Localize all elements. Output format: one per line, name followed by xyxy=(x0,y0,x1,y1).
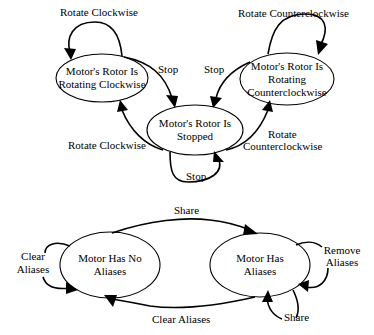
arrowhead-icon xyxy=(213,151,224,162)
arrowhead-icon xyxy=(117,100,128,112)
node-label-line: Motor's Rotor Is xyxy=(159,117,231,129)
edge-noalias-self-loop: Clear Aliases xyxy=(17,243,78,294)
edge-stopped-self-loop: Stop xyxy=(170,151,224,182)
node-label-line: Aliases xyxy=(94,265,126,277)
edge-noalias-to-alias: Share xyxy=(112,204,258,235)
arrowhead-icon xyxy=(316,40,328,55)
node-has-aliases: Motor Has Aliases xyxy=(210,233,310,297)
edge-stopped-to-ccw: Rotate Counterclockwise xyxy=(226,100,323,152)
edge-label: Rotate Counterclockwise xyxy=(238,7,349,19)
node-rotating-clockwise: Motor's Rotor Is Rotating Clockwise xyxy=(56,54,148,102)
edge-cw-self-loop: Rotate Clockwise xyxy=(60,6,138,60)
edge-label: Rotate Clockwise xyxy=(68,139,146,151)
edge-ccw-self-loop: Rotate Counterclockwise xyxy=(238,7,349,55)
node-rotating-counterclockwise: Motor's Rotor Is Rotating Counterclockwi… xyxy=(240,53,334,105)
edge-label-line: Rotate xyxy=(268,128,297,140)
edge-alias-to-noalias: Clear Aliases xyxy=(104,295,255,325)
arrowhead-icon xyxy=(66,282,78,294)
edge-label: Share xyxy=(174,204,199,216)
edge-alias-remove-loop: Remove Aliases xyxy=(296,242,360,292)
node-label-line: Rotating Clockwise xyxy=(58,78,145,90)
node-rotor-stopped: Motor's Rotor Is Stopped xyxy=(147,105,243,155)
arrowhead-icon xyxy=(243,224,258,235)
edge-label: Stop xyxy=(186,170,207,182)
edge-alias-share-loop: Share xyxy=(262,290,309,323)
node-label-line: Motor's Rotor Is xyxy=(66,65,138,77)
edge-label: Stop xyxy=(158,63,179,75)
state-diagram-canvas: Motor's Rotor Is Rotating Clockwise Moto… xyxy=(0,0,374,335)
node-label-line: Counterclockwise xyxy=(247,86,327,98)
node-label-line: Stopped xyxy=(177,130,214,142)
edge-label-line: Remove xyxy=(324,244,361,256)
node-label-line: Motor Has xyxy=(236,252,283,264)
edge-label-line: Counterclockwise xyxy=(243,140,323,152)
edge-label: Share xyxy=(284,311,309,323)
node-label-line: Rotating xyxy=(268,73,306,85)
node-label-line: Aliases xyxy=(244,265,276,277)
node-label-line: Motor's Rotor Is xyxy=(251,60,323,72)
edge-stopped-to-cw: Rotate Clockwise xyxy=(68,100,163,151)
edge-label-line: Aliases xyxy=(17,263,49,275)
arrowhead-icon xyxy=(166,95,178,108)
edge-label: Rotate Clockwise xyxy=(60,6,138,18)
arrowhead-icon xyxy=(64,48,76,60)
node-label-line: Motor Has No xyxy=(78,252,142,264)
arrowhead-icon xyxy=(298,280,309,292)
edge-label: Stop xyxy=(204,63,225,75)
arrowhead-icon xyxy=(104,295,117,307)
edge-label: Clear Aliases xyxy=(152,313,210,325)
edge-label-line: Clear xyxy=(21,250,45,262)
edge-label-line: Aliases xyxy=(326,256,358,268)
